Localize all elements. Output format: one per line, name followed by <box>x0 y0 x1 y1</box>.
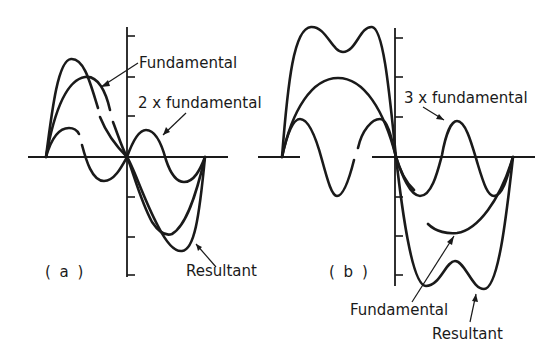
panel-b-fundamental-leader <box>412 236 454 302</box>
panel-a: Fundamental 2 x fundamental Resultant ( … <box>28 27 262 281</box>
panel-a-caption: ( a ) <box>45 263 85 281</box>
panel-a-harmonic-label: 2 x fundamental <box>138 94 262 112</box>
panel-b-resultant-label: Resultant <box>432 325 503 343</box>
panel-b: 3 x fundamental Fundamental Resultant ( … <box>258 27 535 343</box>
panel-b-fundamental-label: Fundamental <box>350 301 448 319</box>
panel-b-caption: ( b ) <box>329 263 370 281</box>
panel-a-resultant-label: Resultant <box>186 262 257 280</box>
panel-a-fundamental-label: Fundamental <box>139 54 237 72</box>
panel-b-harmonic-label: 3 x fundamental <box>404 89 528 107</box>
harmonic-waveform-diagram: Fundamental 2 x fundamental Resultant ( … <box>0 0 558 361</box>
